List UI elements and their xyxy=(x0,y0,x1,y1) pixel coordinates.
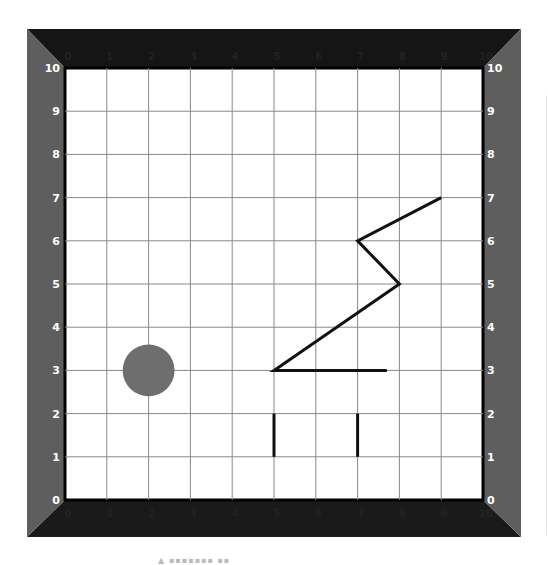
x-tick-bottom: 0 xyxy=(65,508,72,519)
edge-divider xyxy=(546,95,547,535)
y-tick-right: 9 xyxy=(487,105,495,118)
y-tick-left: 3 xyxy=(52,364,60,377)
x-tick-top: 6 xyxy=(315,51,322,62)
x-tick-bottom: 10 xyxy=(479,508,493,519)
y-tick-left: 6 xyxy=(52,235,60,248)
y-tick-right: 1 xyxy=(487,451,495,464)
x-tick-top: 7 xyxy=(357,51,364,62)
y-tick-left: 4 xyxy=(52,321,60,334)
y-tick-right: 3 xyxy=(487,364,495,377)
y-tick-right: 4 xyxy=(487,321,495,334)
y-tick-left: 2 xyxy=(52,408,60,421)
y-tick-right: 6 xyxy=(487,235,495,248)
x-tick-top: 8 xyxy=(399,51,406,62)
x-tick-bottom: 6 xyxy=(315,508,322,519)
x-tick-top: 1 xyxy=(106,51,113,62)
y-tick-left: 1 xyxy=(52,451,60,464)
x-tick-top: 9 xyxy=(441,51,448,62)
y-tick-left: 7 xyxy=(52,192,60,205)
x-tick-top: 0 xyxy=(65,51,72,62)
x-tick-bottom: 5 xyxy=(274,508,281,519)
y-tick-right: 8 xyxy=(487,148,495,161)
x-tick-top: 2 xyxy=(148,51,155,62)
x-tick-bottom: 2 xyxy=(148,508,155,519)
frame-top xyxy=(27,29,521,68)
x-tick-bottom: 1 xyxy=(106,508,113,519)
y-tick-right: 10 xyxy=(487,62,503,75)
x-tick-top: 4 xyxy=(232,51,239,62)
y-tick-right: 2 xyxy=(487,408,495,421)
x-tick-bottom: 8 xyxy=(399,508,406,519)
x-tick-top: 3 xyxy=(190,51,197,62)
caption-text: ▲ ▪▪▪▪▪▪▪ ▪▪ xyxy=(158,556,230,565)
x-tick-bottom: 7 xyxy=(357,508,364,519)
x-tick-bottom: 4 xyxy=(232,508,239,519)
x-tick-top: 5 xyxy=(274,51,281,62)
y-tick-left: 10 xyxy=(45,62,61,75)
y-tick-left: 5 xyxy=(52,278,60,291)
x-tick-top: 10 xyxy=(479,51,493,62)
x-tick-bottom: 9 xyxy=(441,508,448,519)
y-tick-left: 0 xyxy=(52,494,60,507)
y-tick-right: 7 xyxy=(487,192,495,205)
coordinate-grid-board: 0011223344556677889910100011223344556677… xyxy=(0,0,548,565)
y-tick-left: 8 xyxy=(52,148,60,161)
y-tick-right: 0 xyxy=(487,494,495,507)
x-tick-bottom: 3 xyxy=(190,508,197,519)
y-tick-right: 5 xyxy=(487,278,495,291)
gray-circle xyxy=(123,344,175,396)
y-tick-left: 9 xyxy=(52,105,60,118)
